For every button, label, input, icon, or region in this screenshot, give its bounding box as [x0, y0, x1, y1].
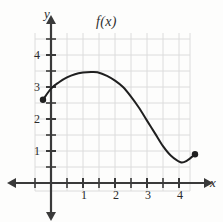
- x-axis-label: x: [210, 175, 216, 191]
- function-curve: [43, 72, 195, 163]
- y-tick-label-2: 2: [30, 112, 44, 127]
- chart-title: f(x): [96, 14, 117, 30]
- graph-figure: f(x) y x 1 2 3 4 1 2 3 4: [0, 0, 223, 222]
- y-tick-label-1: 1: [30, 144, 44, 159]
- right-endpoint-dot: [192, 151, 198, 157]
- y-tick-label-4: 4: [30, 48, 44, 63]
- y-tick-label-3: 3: [30, 80, 44, 95]
- x-tick-label-3: 3: [141, 188, 155, 203]
- y-axis-arrow-down: [46, 212, 56, 221]
- x-tick-label-4: 4: [173, 188, 187, 203]
- y-axis: [46, 15, 56, 221]
- y-axis-label: y: [44, 6, 50, 22]
- left-endpoint-dot: [40, 97, 46, 103]
- x-tick-label-1: 1: [77, 188, 91, 203]
- x-axis-arrow-left: [7, 178, 16, 188]
- endpoint-markers: [40, 97, 198, 158]
- grid-lines: [35, 33, 190, 191]
- x-axis: [7, 178, 213, 188]
- x-tick-label-2: 2: [109, 188, 123, 203]
